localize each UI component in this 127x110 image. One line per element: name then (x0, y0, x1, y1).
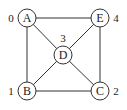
graph-diagram: A0B1C2D3E4 (0, 0, 127, 110)
node-e: E4 (91, 9, 119, 27)
node-b: B1 (8, 82, 36, 100)
node-index-label: 0 (8, 12, 14, 24)
node-index-label: 1 (8, 85, 14, 97)
node-label: E (96, 11, 103, 25)
node-label: C (96, 84, 104, 98)
node-layer: A0B1C2D3E4 (8, 9, 119, 100)
node-index-label: 2 (113, 85, 119, 97)
node-index-label: 4 (113, 12, 119, 24)
node-label: D (59, 48, 68, 62)
node-c: C2 (91, 82, 119, 100)
node-d: D3 (54, 32, 72, 64)
node-a: A0 (8, 9, 36, 27)
node-label: A (23, 11, 32, 25)
node-index-label: 3 (60, 32, 66, 44)
node-label: B (23, 84, 31, 98)
